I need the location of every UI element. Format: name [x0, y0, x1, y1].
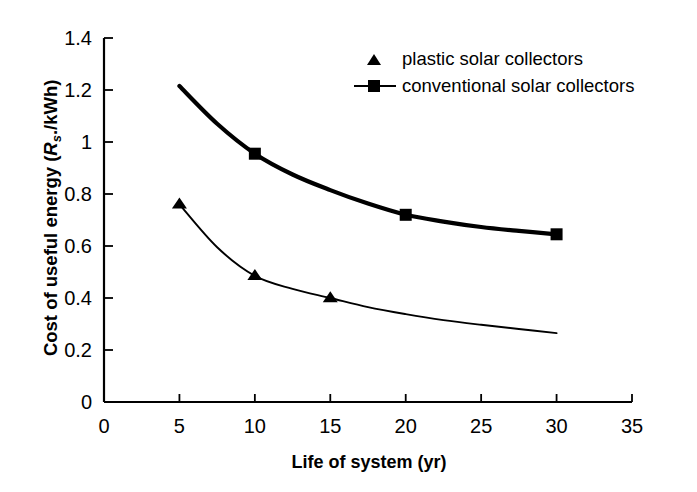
- x-tick-label: 15: [300, 416, 360, 436]
- x-tick-label: 20: [376, 416, 436, 436]
- x-tick-label: 5: [149, 416, 209, 436]
- y-axis-title-suffix: ./kWh): [40, 80, 61, 136]
- chart-legend: plastic solar collectors conventional so…: [352, 45, 682, 99]
- y-axis-title-prefix: Cost of useful energy (: [40, 156, 61, 356]
- x-tick-label: 35: [602, 416, 662, 436]
- x-tick-label: 10: [225, 416, 285, 436]
- square-icon: [352, 75, 398, 97]
- legend-label-conventional: conventional solar collectors: [398, 76, 634, 96]
- x-tick-label: 30: [527, 416, 587, 436]
- x-tick-label: 25: [451, 416, 511, 436]
- figure-canvas: 00.20.40.60.811.21.4 05101520253035 Cost…: [0, 0, 697, 492]
- y-axis-title-subscript: s: [49, 135, 64, 142]
- legend-label-plastic: plastic solar collectors: [398, 49, 583, 69]
- y-axis-title-symbol: R: [40, 142, 61, 155]
- x-tick-label: 0: [74, 416, 134, 436]
- triangle-icon: [352, 48, 398, 70]
- legend-entry-conventional: conventional solar collectors: [352, 72, 682, 99]
- legend-entry-plastic: plastic solar collectors: [352, 45, 682, 72]
- y-axis-title: Cost of useful energy (Rs./kWh): [40, 18, 64, 418]
- x-axis-title: Life of system (yr): [104, 452, 634, 473]
